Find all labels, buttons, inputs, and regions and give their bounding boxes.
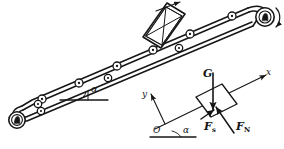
- fbd-block: [196, 84, 237, 117]
- crate-on-belt: [143, 3, 185, 48]
- head-drive-pulley: [256, 8, 274, 26]
- roller: [175, 44, 182, 51]
- force-label-normal-subscript: N: [244, 126, 250, 134]
- conveyor-angle-label: α: [91, 84, 98, 94]
- axis-x-label: x: [266, 68, 271, 77]
- roller: [186, 30, 194, 38]
- force-label-normal: FN: [236, 121, 250, 133]
- fbd-angle-label: α: [183, 126, 189, 135]
- force-label-friction: Fs: [204, 121, 216, 133]
- roller: [34, 100, 41, 107]
- roller: [228, 12, 236, 20]
- force-label-friction-symbol: F: [204, 120, 212, 133]
- conveyor-assembly: [9, 2, 280, 128]
- roller: [75, 79, 83, 87]
- force-label-normal-symbol: F: [236, 120, 244, 133]
- tail-pulley: [9, 112, 25, 128]
- roller: [113, 62, 121, 70]
- pulley-rotation-arrow: [276, 8, 280, 27]
- fbd-axis-y: [151, 94, 165, 124]
- force-label-gravity: G: [203, 68, 212, 79]
- force-label-friction-subscript: s: [212, 126, 216, 134]
- axis-y-label: y: [142, 90, 147, 99]
- force-vector-normal: [216, 107, 234, 133]
- roller: [37, 107, 44, 114]
- figure-root: α α O x y G Fs FN: [0, 0, 284, 149]
- roller: [149, 46, 157, 54]
- roller: [104, 74, 111, 81]
- fbd-origin-label: O: [153, 126, 160, 135]
